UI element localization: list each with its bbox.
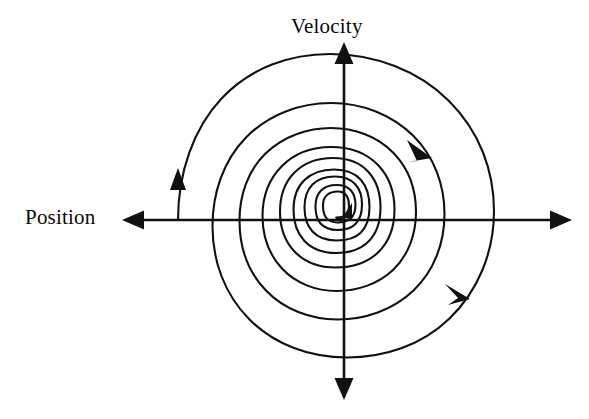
position-axis-right-arrow-icon: [550, 211, 572, 230]
phase-portrait-figure: Velocity Position: [0, 0, 589, 419]
velocity-axis-label: Velocity: [291, 14, 363, 39]
position-axis-left-arrow-icon: [122, 211, 144, 230]
spiral-trajectory-group: [170, 54, 494, 358]
velocity-axis-down-arrow-icon: [335, 378, 354, 400]
velocity-axis-up-arrow-icon: [335, 42, 354, 64]
position-axis-label: Position: [25, 205, 95, 230]
spiral-arrow-lower-right-icon: [445, 284, 470, 305]
spiral-trajectory-path: [178, 54, 494, 358]
